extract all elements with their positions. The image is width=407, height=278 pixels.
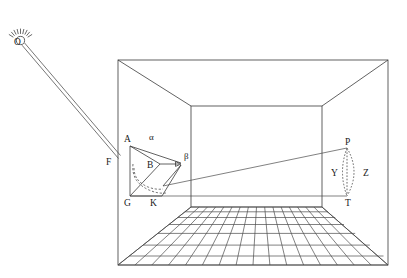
image-lens-PT: [343, 148, 355, 196]
beam-edge-lower: [22, 45, 119, 158]
object-polygon-ABKG: [130, 146, 181, 196]
diagram-canvas: O F A B G K α β P T Y Z: [0, 0, 407, 278]
label-vertex-A: A: [124, 134, 131, 144]
burst-ray: [25, 30, 27, 34]
label-light-source-O: O: [14, 37, 21, 47]
burst-ray: [17, 29, 18, 33]
edge-A-B: [130, 146, 160, 164]
label-angle-beta: β: [184, 151, 189, 161]
label-angle-alpha: α: [149, 132, 154, 142]
burst-ray: [27, 32, 30, 35]
burst-ray: [12, 32, 15, 35]
label-point-P: P: [345, 137, 350, 147]
edge-A-beta: [130, 146, 181, 163]
optics-perspective-diagram: O F A B G K α β P T Y Z: [0, 0, 407, 278]
light-beam: [22, 43, 121, 159]
burst-ray: [28, 35, 32, 37]
label-point-T: T: [345, 198, 351, 208]
perspective-room: [118, 60, 388, 265]
burst-ray: [9, 35, 13, 37]
label-ray-foot-F: F: [106, 157, 111, 167]
label-segment-Z: Z: [363, 168, 369, 178]
room-diagonal-top-right: [322, 60, 388, 106]
dashed-arc-inner: [134, 168, 163, 189]
burst-ray: [23, 29, 24, 33]
room-back-wall-rect: [191, 106, 322, 207]
edge-G-B: [130, 164, 160, 196]
edge-K-beta: [162, 165, 181, 196]
burst-ray: [14, 30, 16, 34]
lens-arc-left: [343, 148, 348, 196]
label-vertex-B: B: [147, 160, 153, 170]
lens-arc-Z: [347, 148, 354, 196]
label-segment-Y: Y: [331, 168, 338, 178]
label-vertex-G: G: [124, 198, 131, 208]
room-diagonal-top-left: [118, 60, 191, 106]
floor-grid: [118, 207, 388, 265]
projection-lines: [130, 148, 347, 196]
room-outer-rect: [118, 60, 388, 265]
diagram-labels: O F A B G K α β P T Y Z: [14, 37, 369, 208]
beam-edge-upper: [25, 43, 121, 156]
label-vertex-K: K: [150, 198, 157, 208]
